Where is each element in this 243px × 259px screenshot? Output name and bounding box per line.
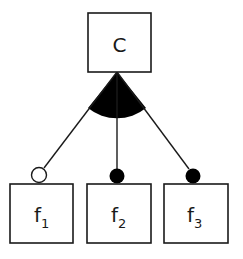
child-feature-f3: f3 <box>164 184 228 243</box>
f2-subscript: 2 <box>118 216 126 231</box>
child-feature-f2: f2 <box>87 184 151 243</box>
f1-subscript: 1 <box>41 216 49 231</box>
mandatory-circle-f2 <box>110 169 125 184</box>
mandatory-circle-f3 <box>186 169 201 184</box>
root-label: C <box>113 33 127 57</box>
f3-box <box>164 184 228 243</box>
feature-diagram: C f1 f2 f3 <box>0 0 243 259</box>
optional-circle-f1 <box>32 168 47 183</box>
child-feature-f1: f1 <box>10 184 73 243</box>
f1-box <box>10 184 73 243</box>
edge-c-f3 <box>117 72 189 169</box>
f3-subscript: 3 <box>194 216 202 231</box>
edge-c-f1 <box>44 72 117 168</box>
root-feature-c: C <box>88 13 151 72</box>
f2-box <box>87 184 151 243</box>
